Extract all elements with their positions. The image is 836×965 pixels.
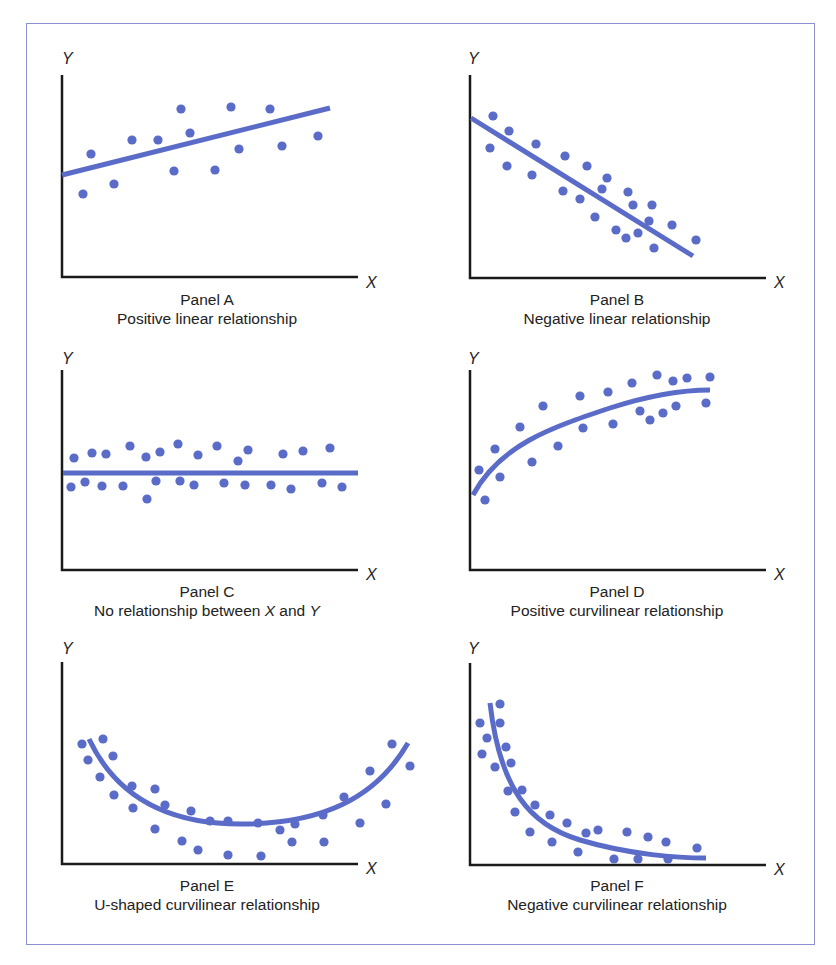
regression-line	[471, 118, 693, 256]
panel-c-caption: Panel C No relationship between X and Y	[57, 582, 357, 620]
panel-b-caption: Panel B Negative linear relationship	[467, 290, 767, 328]
y-axis-label: Y	[62, 50, 74, 67]
panel-subtitle: Positive linear relationship	[57, 309, 357, 328]
regression-line	[62, 108, 330, 175]
panel-title: Panel E	[57, 876, 357, 895]
trend-curve	[89, 739, 408, 824]
data-points	[77, 734, 414, 860]
y-axis-label: Y	[468, 350, 480, 367]
trend-curve	[490, 703, 706, 858]
panel-a-caption: Panel A Positive linear relationship	[57, 290, 357, 328]
subtitle-x: X	[265, 602, 275, 619]
panel-subtitle: U-shaped curvilinear relationship	[57, 895, 357, 914]
panel-subtitle: No relationship between X and Y	[57, 601, 357, 620]
panel-e-caption: Panel E U-shaped curvilinear relationshi…	[57, 876, 357, 914]
panel-f-caption: Panel F Negative curvilinear relationshi…	[467, 876, 767, 914]
y-axis-label: Y	[62, 640, 74, 657]
x-axis-label: X	[773, 274, 786, 291]
x-axis-label: X	[365, 860, 378, 877]
y-axis-label: Y	[468, 50, 480, 67]
panel-subtitle: Negative curvilinear relationship	[467, 895, 767, 914]
x-axis-label: X	[365, 566, 378, 583]
x-axis-label: X	[773, 566, 786, 583]
data-points	[485, 111, 700, 252]
panel-title: Panel C	[57, 582, 357, 601]
panel-title: Panel D	[467, 582, 767, 601]
panel-title: Panel B	[467, 290, 767, 309]
panel-subtitle: Negative linear relationship	[467, 309, 767, 328]
x-axis-label: X	[773, 861, 786, 878]
y-axis-label: Y	[62, 350, 74, 367]
subtitle-y: Y	[310, 602, 320, 619]
panel-title: Panel F	[467, 876, 767, 895]
x-axis-label: X	[365, 274, 378, 291]
subtitle-text: and	[275, 602, 309, 619]
panel-subtitle: Positive curvilinear relationship	[467, 601, 767, 620]
subtitle-text: No relationship between	[94, 602, 265, 619]
panel-d-caption: Panel D Positive curvilinear relationshi…	[467, 582, 767, 620]
y-axis-label: Y	[468, 640, 480, 657]
panel-title: Panel A	[57, 290, 357, 309]
